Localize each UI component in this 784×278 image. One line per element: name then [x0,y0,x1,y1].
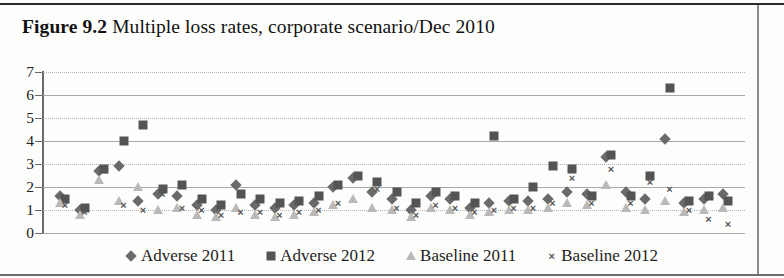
data-point [139,120,148,129]
data-point [665,84,674,93]
data-point [548,198,558,208]
data-point [333,198,343,208]
data-point [236,207,246,217]
legend-item-adverse-2012[interactable]: Adverse 2012 [265,246,375,266]
data-point [606,164,616,174]
data-point [528,203,538,213]
data-point [470,207,480,217]
data-point [275,210,285,220]
data-point [353,171,363,181]
legend-item-baseline-2011[interactable]: Baseline 2011 [405,246,516,266]
legend-marker-diamond-icon [126,251,137,262]
figure-page: Figure 9.2 Multiple loss rates, corporat… [0,0,784,278]
data-point [197,194,206,203]
data-point [60,200,70,210]
data-point [529,183,538,192]
data-point [294,207,304,217]
data-point [158,189,168,199]
data-point [314,192,323,201]
figure-label: Figure 9.2 [22,16,107,37]
marker-square [266,252,275,261]
data-point [411,210,421,220]
legend-marker-square-icon [265,251,276,262]
data-point [412,199,421,208]
data-point [718,203,728,212]
data-point [561,186,572,197]
data-point [640,205,650,214]
data-point [372,184,382,194]
chart-data-points [0,58,784,243]
data-point [177,203,187,213]
data-point [489,205,499,215]
legend-label: Baseline 2011 [420,246,516,266]
chart-plot-area: 01234567 [0,58,784,243]
data-point [153,205,163,214]
data-point [704,214,714,224]
page-rule-top [0,3,784,5]
data-point [626,198,636,208]
legend-item-baseline-2012[interactable]: Baseline 2012 [546,246,658,266]
data-point [645,177,655,187]
data-point [490,132,499,141]
marker-x [547,251,557,261]
data-point [587,198,597,208]
data-point [119,137,128,146]
data-point [601,180,611,189]
data-point [704,192,713,201]
data-point [450,203,460,213]
data-point [659,133,670,144]
data-point [665,184,675,194]
data-point [171,191,182,202]
figure-caption: Figure 9.2 Multiple loss rates, corporat… [22,16,495,38]
data-point [451,192,460,201]
page-rule-bottom [0,274,784,276]
data-point [197,205,207,215]
data-point [236,189,245,198]
data-point [392,187,401,196]
legend-label: Baseline 2012 [561,246,658,266]
data-point [509,203,519,213]
figure-caption-text: Multiple loss rates, corporate scenario/… [112,16,495,37]
data-point [431,187,440,196]
data-point [348,194,358,203]
data-point [684,205,694,215]
legend-marker-triangle-icon [405,251,416,262]
data-point [133,182,143,191]
data-point [660,196,670,205]
data-point [562,198,572,207]
marker-diamond [126,250,137,261]
data-point [548,162,557,171]
data-point [295,196,304,205]
data-point [314,205,324,215]
data-point [113,161,124,172]
data-point [275,199,284,208]
data-point [119,200,129,210]
legend-marker-x-icon [546,251,557,262]
data-point [256,194,265,203]
legend-item-adverse-2011[interactable]: Adverse 2011 [126,246,235,266]
data-point [178,180,187,189]
data-point [255,207,265,217]
data-point [367,203,377,212]
legend-label: Adverse 2012 [280,246,375,266]
data-point [723,219,733,229]
data-point [431,200,441,210]
legend-label: Adverse 2011 [141,246,235,266]
data-point [334,180,343,189]
data-point [138,205,148,215]
data-point [80,207,90,217]
data-point [99,166,109,176]
data-point [567,173,577,183]
data-point [639,193,650,204]
data-point [607,150,616,159]
marker-triangle [406,251,416,260]
data-point [216,210,226,220]
data-point [392,203,402,213]
chart-legend: Adverse 2011Adverse 2012Baseline 2011Bas… [0,243,784,269]
